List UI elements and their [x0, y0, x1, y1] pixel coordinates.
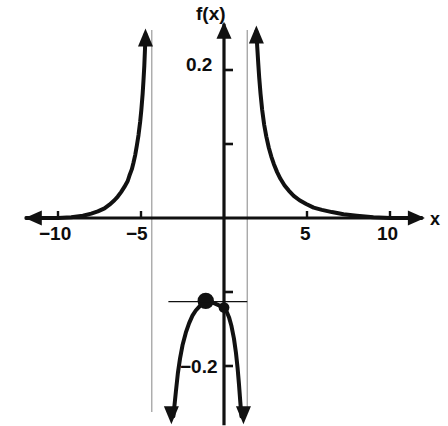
curve-left-branch	[26, 34, 145, 218]
asymptote-lines	[152, 30, 247, 412]
curve-arrow-left-branch-top	[138, 28, 153, 46]
x-tick-label-5: 5	[300, 224, 311, 243]
function-graph-figure: f(x) x 0.2 −0.2 −10 −5 5 10	[0, 0, 448, 426]
curve-arrow-middle-branch-right	[236, 406, 251, 424]
y-tick-label-minus-0.2: −0.2	[180, 357, 218, 376]
x-axis-label: x	[430, 210, 440, 228]
y-intercept-dot	[219, 302, 230, 313]
plot-canvas	[0, 0, 448, 426]
x-tick-label-minus-10: −10	[39, 224, 71, 243]
y-axis-label: f(x)	[196, 4, 226, 23]
y-tick-label-0.2: 0.2	[186, 55, 212, 74]
axes-group	[25, 22, 425, 425]
curve-right-branch	[256, 32, 421, 218]
local-maximum-dot	[198, 293, 214, 309]
annotation-group	[168, 293, 247, 313]
x-tick-label-10: 10	[377, 224, 398, 243]
y-axis-arrow-up	[217, 22, 232, 39]
curve-arrow-right-branch-top	[249, 26, 264, 44]
curve-arrow-middle-branch-left	[164, 406, 179, 424]
x-tick-label-minus-5: −5	[126, 224, 148, 243]
